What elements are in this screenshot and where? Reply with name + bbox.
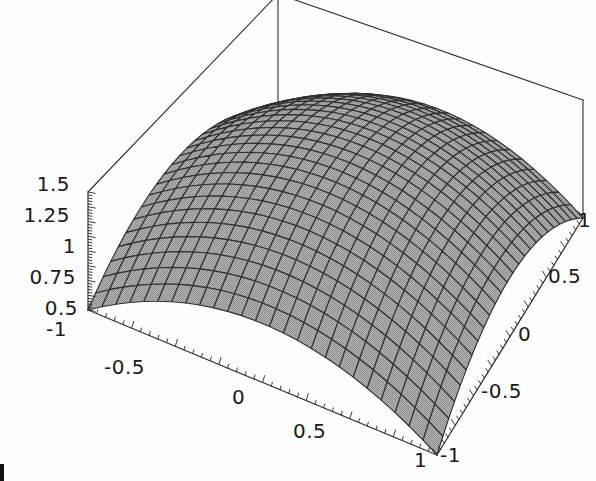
z-tick-label-1-5: 1.5 (14, 172, 70, 196)
x-tick-label-1: 1 (414, 448, 427, 472)
x-tick-label-neg-0-5: -0.5 (104, 355, 145, 379)
y-tick-label-0: 0 (518, 322, 531, 346)
x-tick-label-0: 0 (232, 385, 245, 409)
y-tick-label-neg-1: -1 (440, 443, 461, 467)
z-tick-label-1: 1 (14, 234, 76, 258)
page-edge-artifact (0, 464, 4, 481)
z-tick-label-0-5: 0.5 (12, 296, 78, 320)
y-tick-label-0-5: 0.5 (548, 264, 581, 288)
x-tick-label-neg-1: -1 (46, 317, 67, 341)
surface-plot-figure: 1.5 1.25 1 0.75 0.5 -1 -0.5 0 0.5 1 -1 -… (0, 0, 596, 481)
z-tick-label-0-75: 0.75 (4, 265, 76, 289)
y-tick-label-1: 1 (578, 208, 591, 232)
x-tick-label-0-5: 0.5 (293, 419, 326, 443)
y-tick-label-neg-0-5: -0.5 (481, 379, 522, 403)
surface-plot-canvas (0, 0, 596, 481)
z-tick-label-1-25: 1.25 (4, 203, 70, 227)
